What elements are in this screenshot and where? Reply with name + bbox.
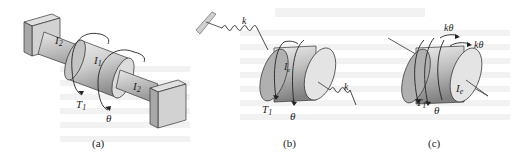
caption-a: (a) <box>92 137 104 149</box>
label-theta: θ <box>290 110 296 122</box>
figure-panel: I2 I1 I2 T1 θ (a) <box>0 0 515 164</box>
disk-Ie <box>396 44 488 106</box>
caption-b: (b) <box>283 137 296 149</box>
label-k-right: k <box>344 81 349 92</box>
label-theta: θ <box>434 104 440 116</box>
left-wall <box>196 12 216 34</box>
label-k-theta-1: kθ <box>444 22 453 33</box>
left-rod <box>206 22 222 28</box>
right-spring <box>330 88 356 106</box>
label-theta: θ <box>106 112 112 124</box>
label-k-left: k <box>242 15 247 26</box>
moment-arrowhead-icon <box>455 34 460 39</box>
left-spring <box>222 26 268 51</box>
label-T1: T1 <box>262 103 272 117</box>
label-I2-left: I2 <box>54 34 63 48</box>
label-T1: T1 <box>76 98 86 112</box>
moment-arrowhead-icon <box>467 42 472 47</box>
angle-arrowhead-icon <box>291 101 297 106</box>
figure-b-spring-disk: k k Ie T1 θ <box>180 0 360 164</box>
disk-Ie <box>254 44 341 104</box>
caption-c: (c) <box>428 137 440 149</box>
label-k-theta-2: kθ <box>474 39 483 50</box>
